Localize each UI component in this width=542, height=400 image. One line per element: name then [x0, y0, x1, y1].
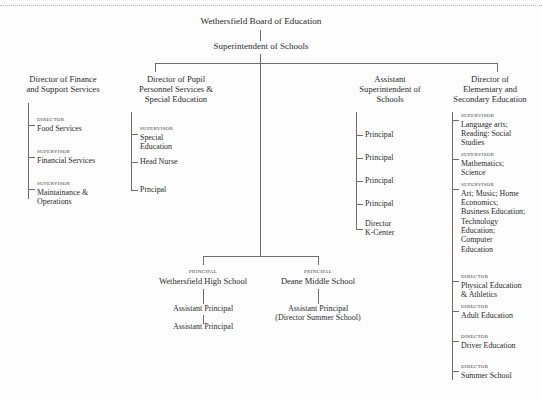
tick-pupil-0	[131, 134, 138, 135]
school-name-high-school: Wethersfield High School	[143, 276, 263, 286]
leaf-adult-education: Director Adult Education	[461, 302, 542, 320]
leaf-head-nurse: Head Nurse	[140, 157, 226, 166]
leaf-physical-education-athletics: Director Physical Education & Athletics	[461, 272, 542, 299]
heading-line: Schools	[335, 94, 445, 104]
connector-middle-school-to-asst	[318, 289, 319, 304]
connector-bus-drop-col4	[497, 63, 498, 72]
leaf-role: Supervisor	[461, 150, 542, 159]
column-stem-finance	[28, 103, 29, 199]
connector-high-school-to-asst-1	[203, 289, 204, 304]
leaf-title: Head Nurse	[140, 157, 226, 166]
tick-elem-1	[452, 159, 459, 160]
tick-asst-2	[356, 181, 363, 182]
column-heading-pupil-personnel: Director of Pupil Personnel Services & S…	[117, 74, 235, 104]
heading-line: Director of Finance	[4, 74, 122, 84]
heading-line: Special Education	[117, 94, 235, 104]
tick-pupil-2	[131, 190, 138, 191]
high-school-assistant-principal-2: Assistant Principal	[153, 322, 253, 331]
tick-elem-6	[452, 371, 459, 372]
leaf-title: Education	[140, 142, 226, 151]
leaf-director-k-center: Director K-Center	[365, 219, 445, 238]
heading-line: Elementary and	[440, 84, 540, 94]
tick-elem-2	[452, 189, 459, 190]
leaf-title: Director	[365, 219, 445, 228]
superintendent-title: Superintendent of Schools	[180, 41, 342, 52]
leaf-role: Director	[37, 115, 123, 124]
connector-superintendent-to-bus	[260, 54, 261, 63]
heading-line: Assistant	[335, 74, 445, 84]
leaf-art-music-home-economics: Supervisor Art; Music; Home Economics; B…	[461, 180, 542, 254]
school-role: Principal	[143, 267, 263, 276]
tick-pupil-1	[131, 162, 138, 163]
leaf-principal-3: Principal	[365, 176, 445, 185]
tick-asst-1	[356, 158, 363, 159]
leaf-language-arts: Supervisor Language arts; Reading: Socia…	[461, 111, 542, 148]
column-stem-pupil-personnel	[131, 112, 132, 190]
tick-elem-3	[452, 281, 459, 282]
leaf-title: Education	[461, 245, 542, 254]
heading-line: and Support Services	[4, 84, 122, 94]
leaf-mathematics-science: Supervisor Mathematics; Science	[461, 150, 542, 177]
leaf-title: Prncipal	[140, 185, 226, 194]
leaf-role: Director	[461, 302, 542, 311]
leaf-principal-pupil: Prncipal	[140, 185, 226, 194]
leaf-maintenance-operations: Supervisor Maintainance & Operations	[37, 179, 127, 206]
column-stem-assistant-superintendent	[356, 112, 357, 229]
leaf-title: & Athletics	[461, 290, 542, 299]
school-role-high-school: Principal	[143, 267, 263, 276]
node-superintendent: Superintendent of Schools	[180, 41, 342, 52]
leaf-title: Reading: Social	[461, 129, 542, 138]
leaf-title: Studies	[461, 138, 542, 147]
assistant-principal-note: (Director Summer School)	[258, 313, 378, 322]
leaf-title: Technology	[461, 217, 542, 226]
column-heading-assistant-superintendent: Assistant Superintendent of Schools	[335, 74, 445, 104]
leaf-role: Director	[461, 272, 542, 281]
connector-root-to-superintendent	[260, 30, 261, 41]
school-title: Wethersfield High School	[143, 276, 263, 286]
leaf-title: Special	[140, 133, 226, 142]
assistant-principal-title: Assistant Principal	[153, 322, 253, 331]
tick-elem-0	[452, 120, 459, 121]
leaf-title: Mathematics;	[461, 159, 542, 168]
school-role-middle-school: Principal	[258, 267, 378, 276]
leaf-title: Computer	[461, 235, 542, 244]
tick-finance-0	[28, 125, 35, 126]
leaf-title: Maintainance &	[37, 188, 127, 197]
leaf-title: Principal	[365, 199, 445, 208]
leaf-title: Principal	[365, 130, 445, 139]
heading-line: Superintendent of	[335, 84, 445, 94]
leaf-title: Art; Music; Home	[461, 189, 542, 198]
leaf-title: Summer School	[461, 371, 542, 380]
leaf-summer-school: Director Summer School	[461, 362, 542, 380]
board-of-education-title: Wethersfield Board of Education	[171, 16, 351, 27]
leaf-principal-1: Principal	[365, 130, 445, 139]
tick-asst-0	[356, 135, 363, 136]
school-role: Principal	[258, 267, 378, 276]
heading-line: Secondary Education	[440, 94, 540, 104]
column-stem-elementary-secondary	[452, 112, 453, 380]
connector-schools-drop-right	[318, 256, 319, 265]
leaf-role: Director	[461, 362, 542, 371]
assistant-principal-title: Assistant Principal	[153, 304, 253, 313]
leaf-driver-education: Director Driver Education	[461, 332, 542, 350]
leaf-title: Physical Education	[461, 281, 542, 290]
leaf-title: Economics;	[461, 198, 542, 207]
column-heading-finance: Director of Finance and Support Services	[4, 74, 122, 94]
leaf-food-services: Director Food Services	[37, 115, 123, 133]
heading-line: Personnel Services &	[117, 84, 235, 94]
org-chart: Wethersfield Board of Education Superint…	[0, 0, 542, 400]
connector-schools-bus	[203, 256, 318, 257]
leaf-special-education: Supervisor Special Education	[140, 124, 226, 151]
connector-top-bus	[155, 63, 497, 64]
tick-asst-4	[356, 229, 363, 230]
middle-school-assistant-principal: Assistant Principal (Director Summer Sch…	[258, 304, 378, 323]
leaf-financial-services: Supervisor Financial Services	[37, 147, 127, 165]
leaf-role: Supervisor	[37, 147, 127, 156]
leaf-role: Supervisor	[461, 111, 542, 120]
tick-elem-5	[452, 341, 459, 342]
leaf-title: Business Education;	[461, 207, 542, 216]
leaf-role: Supervisor	[37, 179, 127, 188]
leaf-title: Food Services	[37, 124, 123, 133]
leaf-role: Director	[461, 332, 542, 341]
leaf-title: Science	[461, 168, 542, 177]
